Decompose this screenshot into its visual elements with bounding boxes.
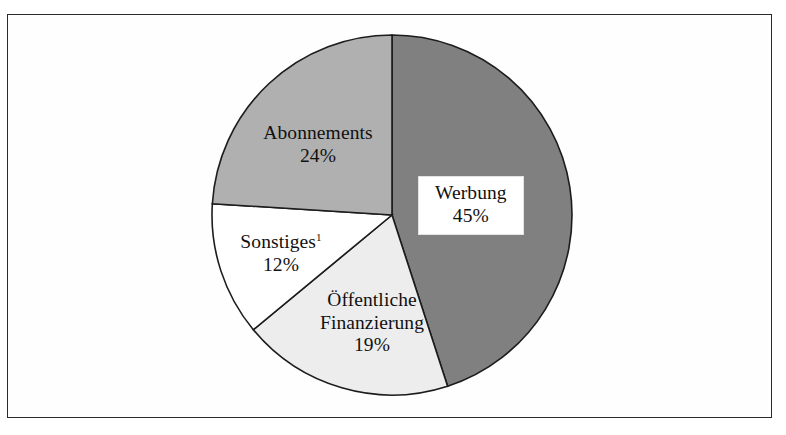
pie-label-oeffentliche-percent: 19% [304,334,440,357]
pie-label-sonstiges-percent: 12% [222,254,340,277]
pie-label-sonstiges-name: Sonstiges [240,231,316,252]
pie-label-oeffentliche-finanzierung: Öffentliche Finanzierung 19% [304,289,440,357]
pie-label-oeffentliche-name-line1: Öffentliche [304,289,440,312]
pie-label-werbung-name: Werbung [435,182,507,205]
pie-label-abonnements: Abonnements 24% [243,122,393,167]
pie-chart-svg [0,0,786,435]
pie-chart-area: Werbung 45% Abonnements 24% Sonstiges1 1… [0,0,786,435]
pie-label-werbung-percent: 45% [435,205,507,228]
pie-label-sonstiges: Sonstiges1 12% [222,231,340,276]
pie-label-abonnements-name: Abonnements [243,122,393,145]
pie-chart-figure: Werbung 45% Abonnements 24% Sonstiges1 1… [0,0,786,435]
pie-label-sonstiges-name-row: Sonstiges1 [222,231,340,254]
pie-label-werbung: Werbung 45% [418,176,524,235]
pie-label-oeffentliche-name-line2: Finanzierung [304,312,440,335]
pie-label-abonnements-percent: 24% [243,145,393,168]
footnote-marker-icon: 1 [316,231,322,243]
